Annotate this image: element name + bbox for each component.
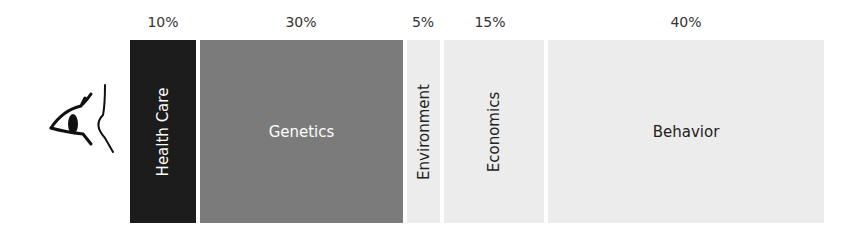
pct-label-genetics: 30% bbox=[285, 14, 316, 30]
eye-icon bbox=[45, 80, 115, 160]
segment-behavior: Behavior bbox=[548, 40, 824, 223]
segment-health-care: Health Care bbox=[130, 40, 196, 223]
segment-label: Behavior bbox=[653, 123, 720, 141]
segment-economics: Economics bbox=[444, 40, 544, 223]
pct-label-economics: 15% bbox=[474, 14, 505, 30]
segment-environment: Environment bbox=[407, 40, 440, 223]
pct-label-behavior: 40% bbox=[670, 14, 701, 30]
segment-label: Health Care bbox=[154, 87, 172, 176]
segment-label: Economics bbox=[485, 91, 503, 171]
segment-label: Environment bbox=[415, 84, 433, 180]
pct-label-health-care: 10% bbox=[147, 14, 178, 30]
segment-label: Genetics bbox=[269, 123, 335, 141]
segment-genetics: Genetics bbox=[200, 40, 403, 223]
pct-label-environment: 5% bbox=[412, 14, 434, 30]
